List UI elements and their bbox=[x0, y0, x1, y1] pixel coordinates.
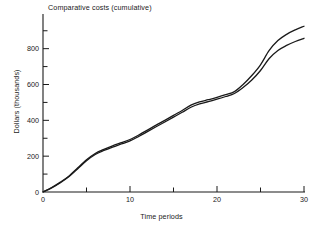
series-line-upper-curve bbox=[43, 26, 304, 192]
x-axis-label: Time periods bbox=[0, 212, 323, 221]
data-series-group bbox=[43, 26, 304, 192]
x-tick-label: 10 bbox=[115, 195, 145, 204]
y-axis-label: Dollars (thousands) bbox=[12, 42, 21, 162]
axis-ticks-group bbox=[43, 31, 304, 192]
x-tick-label: 0 bbox=[28, 195, 58, 204]
chart-figure: Comparative costs (cumulative) 020040060… bbox=[0, 0, 323, 229]
x-tick-label: 20 bbox=[202, 195, 232, 204]
x-tick-label: 30 bbox=[289, 195, 319, 204]
